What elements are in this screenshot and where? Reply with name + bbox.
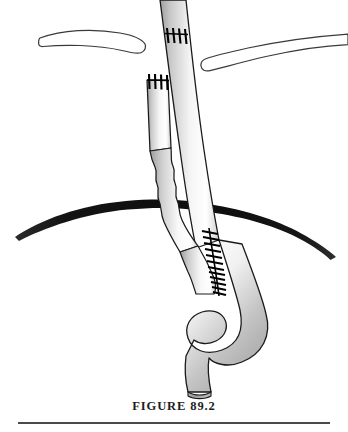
surgical-illustration (0, 0, 348, 400)
figure-page: FIGURE 89.2 (0, 0, 348, 432)
caption-rule (18, 422, 330, 424)
right-clavicle (201, 34, 348, 71)
caption-area: FIGURE 89.2 (0, 398, 348, 432)
left-clavicle (39, 30, 146, 53)
figure-caption: FIGURE 89.2 (0, 398, 348, 414)
